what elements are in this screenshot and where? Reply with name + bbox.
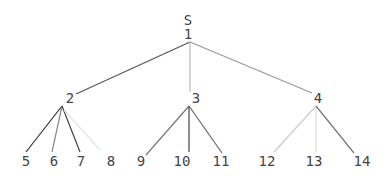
tree-edges <box>0 0 388 176</box>
tree-node-9: 9 <box>137 154 145 168</box>
tree-node-8: 8 <box>107 154 115 168</box>
tree-node-14: 14 <box>354 154 371 168</box>
tree-edge <box>76 42 190 94</box>
tree-node-10: 10 <box>174 154 191 168</box>
tree-node-12: 12 <box>259 154 276 168</box>
tree-edge <box>190 42 312 93</box>
tree-edge <box>64 110 100 150</box>
tree-node-13: 13 <box>306 154 323 168</box>
tree-edge <box>62 106 80 152</box>
tree-edge <box>274 106 316 152</box>
root-label-s: S <box>184 13 192 27</box>
tree-node-1: 1 <box>184 27 192 41</box>
tree-node-7: 7 <box>77 154 85 168</box>
tree-node-6: 6 <box>50 154 58 168</box>
tree-edge <box>316 106 354 153</box>
tree-node-2: 2 <box>66 91 74 105</box>
tree-node-4: 4 <box>314 91 322 105</box>
tree-node-5: 5 <box>22 154 30 168</box>
tree-node-3: 3 <box>192 91 200 105</box>
tree-edge <box>146 106 189 155</box>
tree-node-11: 11 <box>213 154 230 168</box>
tree-edge <box>189 106 222 153</box>
